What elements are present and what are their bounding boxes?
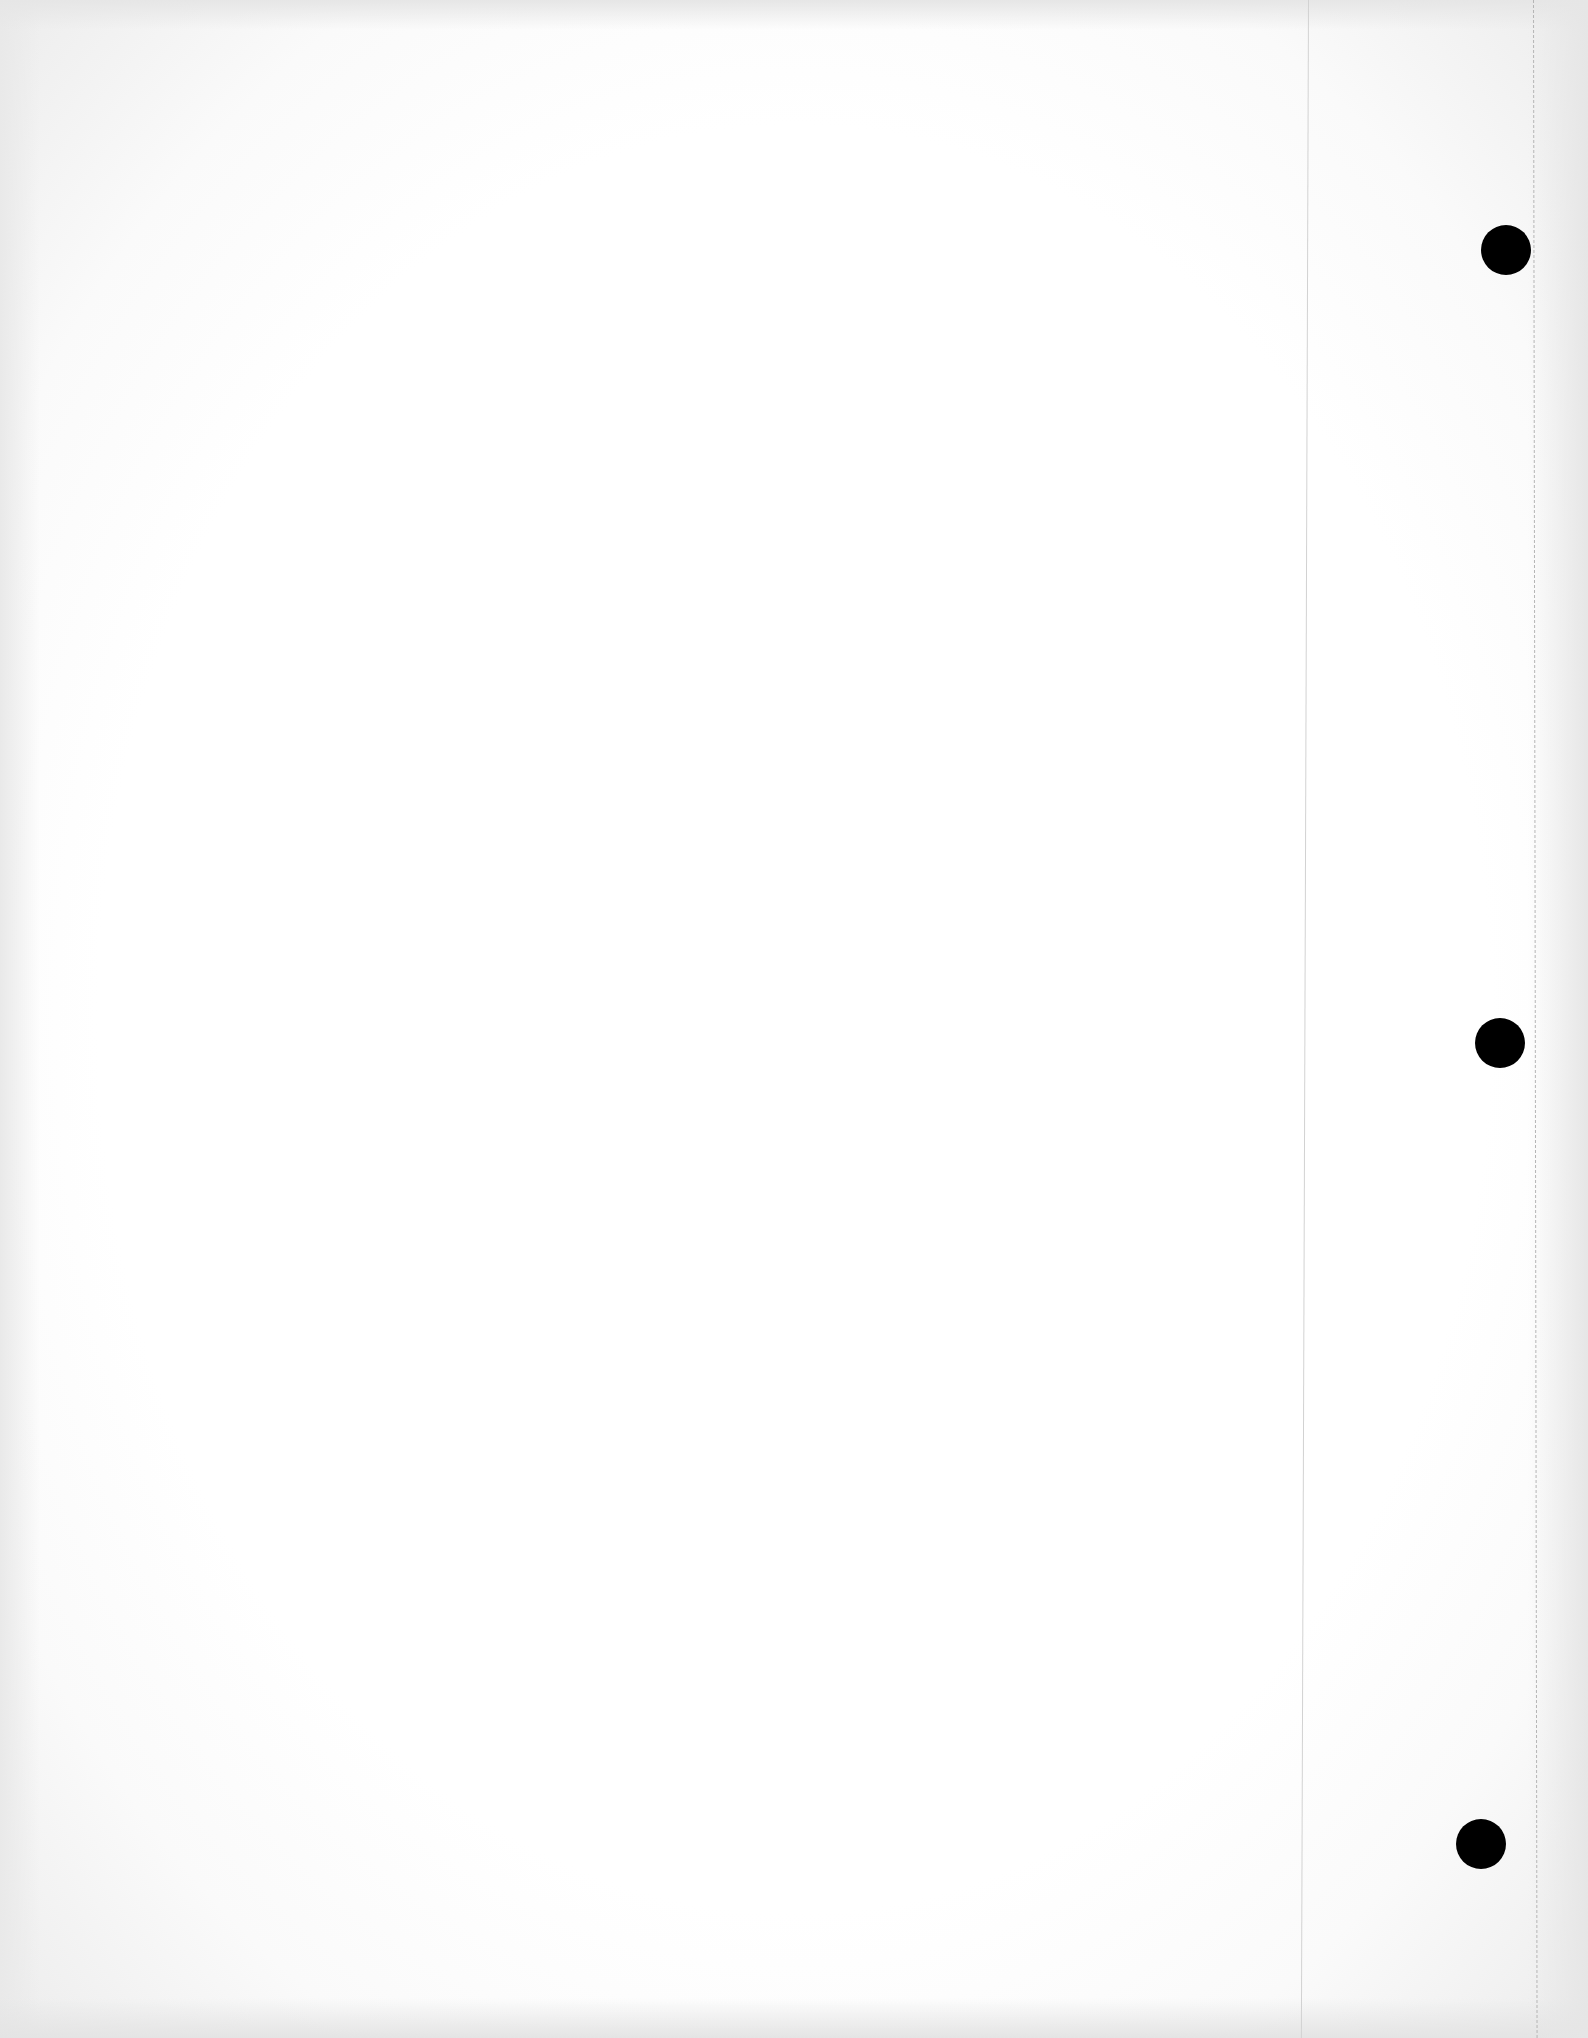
margin-line: [1301, 0, 1309, 2038]
scan-shadow-top: [0, 0, 1588, 30]
punch-hole-bottom: [1456, 1819, 1506, 1869]
punch-hole-middle: [1475, 1018, 1525, 1068]
blank-paper-sheet: [0, 0, 1588, 2038]
punch-hole-top: [1481, 225, 1531, 275]
scan-shadow-bottom: [0, 1998, 1588, 2038]
scan-shadow-left: [0, 0, 40, 2038]
